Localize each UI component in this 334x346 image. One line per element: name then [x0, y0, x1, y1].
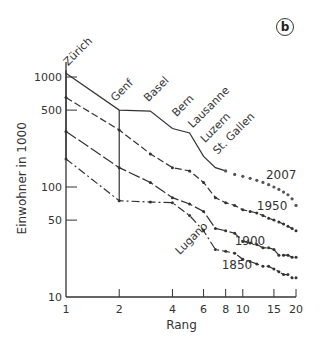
- series-dot-2007: [241, 175, 244, 178]
- series-point-1850: [267, 265, 270, 268]
- x-tick-label: 1: [63, 303, 70, 316]
- x-tick-label: 15: [267, 303, 281, 316]
- series-point-1950: [277, 221, 280, 224]
- series-point-1950: [272, 219, 275, 222]
- x-tick-label: 8: [222, 303, 229, 316]
- series-point-1900: [171, 196, 174, 199]
- series-point-1950: [149, 152, 152, 155]
- series-point-1850: [277, 270, 280, 273]
- series-point-1850: [188, 214, 191, 217]
- series-dot-2007: [261, 181, 264, 184]
- series-point-1950: [261, 214, 264, 217]
- series-point-1850: [272, 267, 275, 270]
- series-point-1850: [214, 248, 217, 251]
- x-tick-label: 4: [169, 303, 176, 316]
- series-point-1950: [188, 169, 191, 172]
- series-dot-2007: [290, 197, 293, 200]
- y-tick-label: 1000: [34, 71, 62, 84]
- series-dot-2007: [224, 169, 227, 172]
- series-point-1950: [291, 227, 294, 230]
- series-point-1950: [171, 166, 174, 169]
- series-point-1950: [241, 208, 244, 211]
- series-point-1900: [188, 203, 191, 206]
- city-label: Zürich: [61, 34, 95, 68]
- series-dot-2007: [294, 204, 297, 207]
- city-label: Lugano: [173, 219, 211, 257]
- series-point-1950: [202, 181, 205, 184]
- annotations: ZürichGenfBaselBernLausanneLuzernSt. Gal…: [61, 34, 297, 272]
- series-point-1850: [233, 252, 236, 255]
- series-label: 1950: [257, 199, 288, 213]
- series-point-1900: [224, 229, 227, 232]
- series-point-1900: [149, 181, 152, 184]
- x-tick-label: 2: [116, 303, 123, 316]
- axes: 1246810152010501005001000RangEinwohner i…: [15, 62, 303, 332]
- series-point-1950: [267, 217, 270, 220]
- series-point-1950: [286, 225, 289, 228]
- city-label: Basel: [141, 74, 171, 104]
- series-dot-2007: [249, 177, 252, 180]
- series-label: 2007: [266, 168, 297, 182]
- series-point-1900: [202, 210, 205, 213]
- city-label: Genf: [108, 76, 136, 104]
- series-dot-2007: [282, 190, 285, 193]
- x-tick-label: 20: [289, 303, 303, 316]
- rank-size-chart: 1246810152010501005001000RangEinwohner i…: [0, 0, 334, 346]
- series-point-1900: [282, 254, 285, 257]
- series-dot-2007: [286, 193, 289, 196]
- series-point-1850: [286, 273, 289, 276]
- x-axis-label: Rang: [166, 318, 197, 332]
- series-point-1900: [277, 254, 280, 257]
- series-dot-2007: [272, 185, 275, 188]
- series-point-1850: [282, 273, 285, 276]
- series-point-1950: [214, 196, 217, 199]
- y-tick-label: 10: [48, 291, 62, 304]
- series-dot-2007: [255, 179, 258, 182]
- y-axis-label: Einwohner in 1000: [15, 122, 29, 234]
- series-label: 1900: [235, 234, 266, 248]
- series-point-1850: [291, 276, 294, 279]
- series-dot-2007: [233, 173, 236, 176]
- series-dot-2007: [267, 183, 270, 186]
- series-point-1850: [295, 276, 298, 279]
- series-label: 1850: [222, 258, 253, 272]
- series-point-1900: [214, 227, 217, 230]
- series-point-1850: [261, 265, 264, 268]
- series-point-1900: [267, 246, 270, 249]
- series-point-1950: [224, 201, 227, 204]
- series-point-1900: [272, 248, 275, 251]
- series-point-1850: [171, 201, 174, 204]
- series-point-1850: [149, 201, 152, 204]
- series-point-1950: [282, 223, 285, 226]
- series-point-1900: [286, 254, 289, 257]
- series-line-1850: [66, 159, 296, 278]
- series-point-1950: [295, 229, 298, 232]
- y-tick-label: 100: [41, 181, 62, 194]
- y-tick-label: 50: [48, 214, 62, 227]
- series-point-1950: [249, 210, 252, 213]
- series-point-1850: [255, 262, 258, 265]
- x-tick-label: 10: [236, 303, 250, 316]
- series-dot-2007: [277, 188, 280, 191]
- y-tick-label: 500: [41, 104, 62, 117]
- series-point-1900: [291, 256, 294, 259]
- series-point-1900: [295, 256, 298, 259]
- series-point-1950: [233, 204, 236, 207]
- series-point-1850: [224, 250, 227, 253]
- x-tick-label: 6: [200, 303, 207, 316]
